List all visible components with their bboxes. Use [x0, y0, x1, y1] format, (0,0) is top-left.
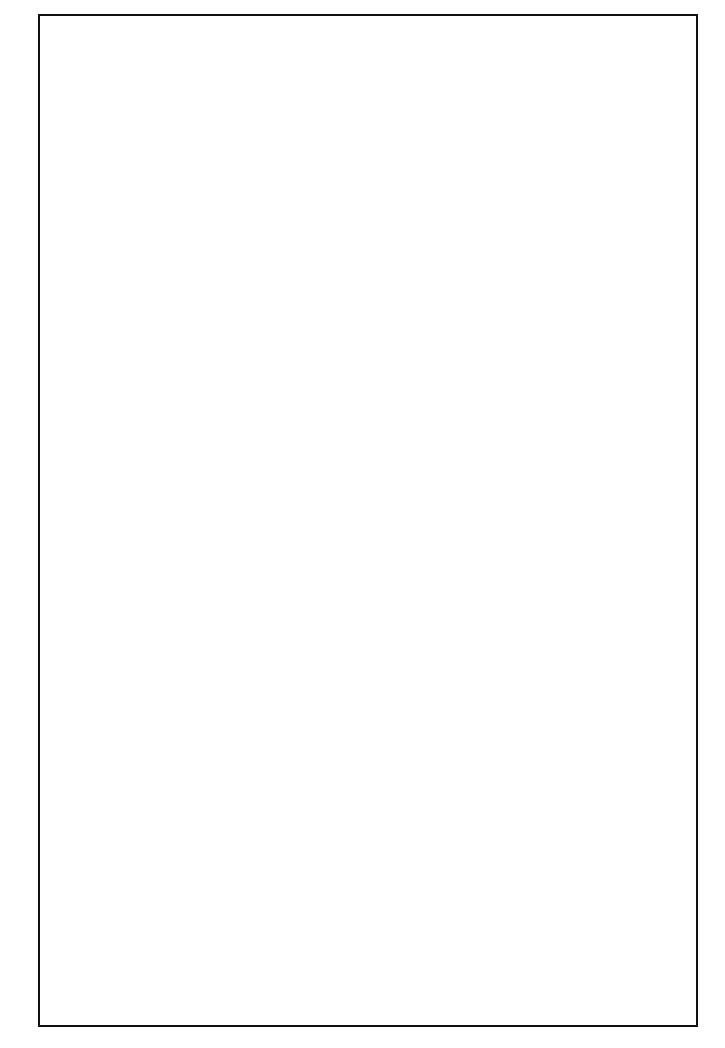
histogram-panel-white: [40, 504, 696, 974]
figure-page: [0, 0, 725, 1048]
figure-frame: [38, 14, 698, 1027]
histogram-panel-black: [40, 64, 696, 496]
